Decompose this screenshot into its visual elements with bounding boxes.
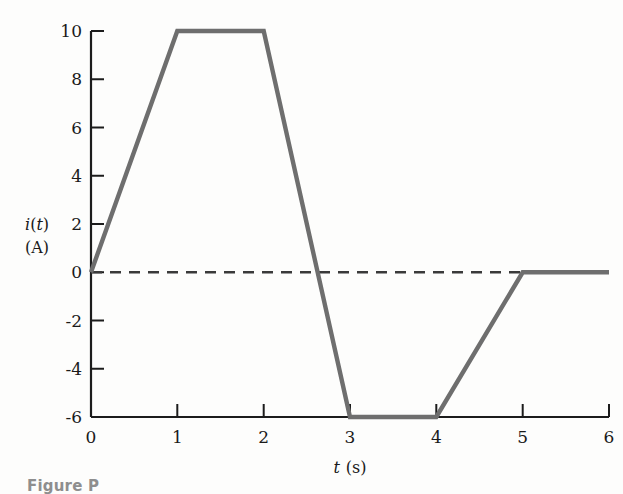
y-axis-title-paren-close: )	[43, 215, 49, 234]
waveform-chart: 10 8 6 4 2 0 -2 -4 -6 0 1 2 3 4 5 6 i(t)	[0, 0, 623, 494]
x-tick-label-5: 5	[517, 427, 528, 447]
y-tick-label-0: 0	[71, 262, 82, 282]
y-tick-label-4: 4	[71, 166, 82, 186]
y-tick-label--6: -6	[65, 407, 82, 427]
y-axis-tick-labels: 10 8 6 4 2 0 -2 -4 -6	[60, 21, 82, 427]
x-tick-label-4: 4	[431, 427, 442, 447]
x-tick-label-6: 6	[604, 427, 615, 447]
x-tick-label-1: 1	[172, 427, 183, 447]
y-axis-title-unit: (A)	[25, 238, 49, 257]
y-tick-label--2: -2	[65, 311, 82, 331]
x-axis-tick-labels: 0 1 2 3 4 5 6	[86, 427, 615, 447]
figure-container: 10 8 6 4 2 0 -2 -4 -6 0 1 2 3 4 5 6 i(t)	[0, 0, 623, 494]
figure-caption: Figure P	[27, 477, 99, 494]
x-axis-title-t: t	[333, 458, 340, 477]
x-tick-label-3: 3	[345, 427, 356, 447]
y-tick-label-2: 2	[71, 214, 82, 234]
x-tick-label-2: 2	[258, 427, 269, 447]
y-tick-label-8: 8	[71, 69, 82, 89]
current-waveform-line	[91, 31, 609, 417]
x-axis-title-unit: (s)	[346, 458, 367, 477]
y-tick-label--4: -4	[65, 359, 82, 379]
y-tick-label-6: 6	[71, 118, 82, 138]
y-axis-title-variable: i(t)	[25, 215, 49, 234]
x-axis-title: t(s)	[333, 458, 366, 477]
y-axis-ticks	[91, 31, 104, 417]
x-tick-label-0: 0	[86, 427, 97, 447]
y-tick-label-10: 10	[60, 21, 82, 41]
